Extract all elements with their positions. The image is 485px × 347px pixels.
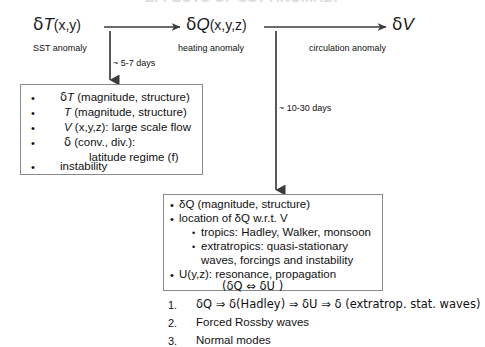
caption-heating-anomaly: heating anomaly [178, 44, 244, 53]
timing-label-10-30-days: ~ 10-30 days [279, 104, 331, 113]
left-box-item-4: δ (conv., div.): [64, 137, 135, 149]
var-glyph-dV: V [402, 15, 413, 34]
numbered-item-1-text: δQ ⇒ δ(Hadley) ⇒ δU ⇒ δ (extratrop. stat… [196, 299, 480, 311]
left-box-bullet-5: • [31, 162, 35, 173]
right-box-subbullet-1: • [192, 229, 195, 238]
left-box-bullet-2: • [31, 108, 35, 119]
left-item-4-text: (conv., div.): [71, 136, 135, 148]
numbered-item-3-number: 3. [168, 336, 177, 347]
node-symbol-dQ: δQ(x,y,z) [186, 16, 247, 33]
right-box-bullet-1: • [170, 200, 174, 211]
right-box-bullet-2: • [170, 214, 174, 225]
right-box-item-7: (δQ ⇔ δU ) [222, 281, 283, 293]
var-glyph-dQ: Q [196, 15, 209, 34]
left-item-3-text: (x,y,z): large scale flow [72, 121, 191, 133]
var-glyph-dT: T [43, 15, 53, 34]
left-box-item-2: T (magnitude, structure) [64, 107, 187, 119]
left-box-bullet-1: • [31, 93, 35, 104]
left-item-4-delta: δ [64, 135, 71, 149]
right-box-bullet-3: • [170, 270, 174, 281]
left-box-item-1: δT (magnitude, structure) [60, 92, 190, 104]
diagram-canvas: EFFECTS OF SST ANOMALY δT(x,y) δQ(x,y,z)… [0, 0, 485, 347]
args-dT: (x,y) [54, 17, 81, 33]
timing-label-5-7-days: ~ 5-7 days [113, 59, 155, 68]
delta-glyph-dQ: δ [186, 14, 196, 34]
numbered-item-3-text: Normal modes [196, 335, 271, 347]
left-item-2-text: (magnitude, structure) [71, 106, 187, 118]
numbered-item-1-number: 1. [168, 300, 177, 311]
caption-circulation-anomaly: circulation anomaly [309, 44, 386, 53]
right-box-item-5: waves, forcings and instability [201, 255, 353, 267]
right-box-item-2: location of δQ w.r.t. V [179, 213, 288, 225]
left-item-1-delta: δ [60, 90, 67, 104]
page-title: EFFECTS OF SST ANOMALY [0, 0, 485, 5]
left-box-item-3: V (x,y,z): large scale flow [64, 122, 191, 134]
left-box-bullet-4: • [31, 138, 35, 149]
args-dQ: (x,y,z) [210, 17, 247, 33]
numbered-item-2-number: 2. [168, 318, 177, 329]
left-item-1-text: (magnitude, structure) [74, 91, 190, 103]
left-item-2-var: T [64, 106, 71, 118]
left-box-item-6: instability [60, 161, 107, 173]
delta-glyph-dV: δ [392, 14, 402, 34]
left-box-bullet-3: • [31, 123, 35, 134]
delta-glyph-dT: δ [33, 14, 43, 34]
right-item-7-text: (δQ ⇔ δU ) [222, 279, 283, 293]
right-box-item-1: δQ (magnitude, structure) [179, 199, 310, 211]
numbered-item-1-body: δQ ⇒ δ(Hadley) ⇒ δU ⇒ δ (extratrop. stat… [196, 297, 480, 311]
numbered-item-2-text: Forced Rossby waves [196, 317, 309, 329]
right-box-subbullet-2: • [192, 243, 195, 252]
node-symbol-dT: δT(x,y) [33, 16, 81, 33]
node-symbol-dV: δV [392, 16, 414, 33]
left-item-3-var: V [64, 121, 72, 133]
right-box-item-4: extratropics: quasi-stationary [201, 241, 348, 253]
right-box-item-3: tropics: Hadley, Walker, monsoon [201, 227, 371, 239]
caption-sst-anomaly: SST anomaly [33, 44, 87, 53]
left-item-6-text: instability [60, 160, 107, 172]
